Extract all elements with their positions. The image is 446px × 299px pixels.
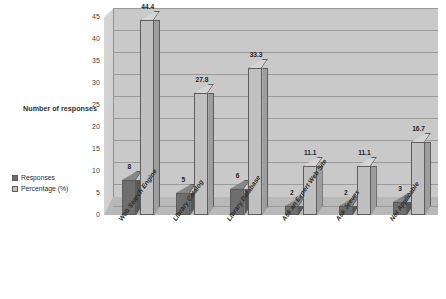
- legend-label: Percentage (%): [21, 183, 68, 194]
- plot-back-wall: [113, 8, 438, 206]
- y-axis-tick-label: 45: [74, 13, 100, 20]
- gridline: [113, 96, 438, 97]
- legend-label: Responses: [21, 172, 55, 183]
- gridline: [113, 206, 438, 207]
- y-axis-tick-label: 15: [74, 145, 100, 152]
- gridline: [113, 74, 438, 75]
- gridline-riser: [104, 140, 114, 149]
- y-axis-tick-label: 40: [74, 35, 100, 42]
- gridline-riser: [104, 74, 114, 83]
- y-axis-tick-label: 30: [74, 79, 100, 86]
- gridline-riser: [104, 184, 114, 193]
- legend-color-swatch: [12, 175, 18, 181]
- gridline: [113, 52, 438, 53]
- bar-chart: 051015202530354045 Number of responses 8…: [0, 0, 446, 299]
- gridline-riser: [104, 30, 114, 39]
- y-axis-tick-label: 0: [74, 211, 100, 218]
- gridline-riser: [104, 8, 114, 17]
- y-axis-title: Number of responses: [14, 104, 106, 113]
- gridline-riser: [104, 118, 114, 127]
- y-axis-tick-label: 5: [74, 189, 100, 196]
- gridline: [113, 118, 438, 119]
- gridline-riser: [104, 206, 114, 215]
- gridline-riser: [104, 52, 114, 61]
- gridline: [113, 140, 438, 141]
- y-axis-tick-label: 20: [74, 123, 100, 130]
- y-axis-tick-label: 35: [74, 57, 100, 64]
- y-axis-tick-label: 10: [74, 167, 100, 174]
- legend-entry: Responses: [12, 172, 68, 183]
- legend-color-swatch: [12, 186, 18, 192]
- gridline: [113, 162, 438, 163]
- chart-legend: ResponsesPercentage (%): [12, 172, 68, 194]
- gridline: [113, 184, 438, 185]
- gridline: [113, 8, 438, 9]
- gridline: [113, 30, 438, 31]
- legend-entry: Percentage (%): [12, 183, 68, 194]
- gridline-riser: [104, 162, 114, 171]
